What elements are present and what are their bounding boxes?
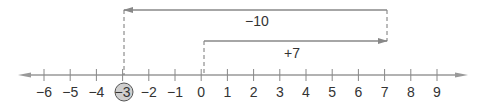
move-plus-7: +7 — [204, 41, 387, 75]
tick-label: 4 — [302, 84, 310, 100]
move-label: −10 — [245, 13, 269, 29]
tick-label: −6 — [36, 84, 52, 100]
axis — [18, 73, 468, 78]
right-arrow-icon — [455, 73, 468, 78]
tick-label: −1 — [167, 84, 183, 100]
number-line-svg: −6−5−4−3−2−10123456789 +7 −10 — [0, 0, 478, 107]
move-minus-10: −10 — [124, 10, 387, 75]
tick-marks: −6−5−4−3−2−10123456789 — [36, 69, 441, 100]
number-line-diagram: −6−5−4−3−2−10123456789 +7 −10 — [0, 0, 478, 107]
tick-label: 9 — [433, 84, 441, 100]
tick-label: −4 — [88, 84, 104, 100]
tick-label: −2 — [141, 84, 157, 100]
tick-label: −3 — [115, 84, 131, 100]
tick-label: 8 — [407, 84, 415, 100]
tick-label: 6 — [355, 84, 363, 100]
tick-label: −5 — [62, 84, 78, 100]
tick-label: 7 — [381, 84, 389, 100]
tick-label: 2 — [250, 84, 258, 100]
move-label: +7 — [284, 45, 300, 61]
left-arrow-icon — [18, 73, 31, 78]
tick-label: 1 — [224, 84, 232, 100]
tick-label: 3 — [276, 84, 284, 100]
tick-label: 0 — [197, 84, 205, 100]
tick-label: 5 — [328, 84, 336, 100]
